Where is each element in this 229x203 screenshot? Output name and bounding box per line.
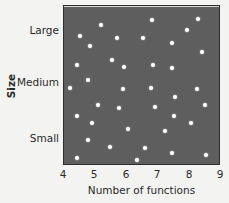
data-point — [195, 87, 199, 91]
data-point — [196, 17, 200, 21]
data-point — [86, 78, 90, 82]
x-tick-7: 7 — [150, 168, 164, 180]
data-point — [108, 145, 112, 149]
data-point — [78, 34, 82, 38]
data-point — [204, 153, 208, 157]
data-point — [99, 23, 103, 27]
data-point — [170, 66, 174, 70]
data-point — [185, 28, 189, 32]
data-point — [170, 41, 174, 45]
data-point — [135, 158, 139, 162]
y-tick-medium: Medium — [17, 76, 59, 88]
x-tick-6: 6 — [119, 168, 133, 180]
data-point — [68, 86, 72, 90]
data-point — [189, 121, 193, 125]
data-point — [75, 156, 79, 160]
data-point — [75, 114, 79, 118]
data-point — [149, 86, 153, 90]
data-point — [143, 146, 147, 150]
data-point — [153, 105, 157, 109]
data-point — [117, 106, 121, 110]
data-point — [121, 87, 125, 91]
data-point — [122, 65, 126, 69]
data-point — [110, 58, 114, 62]
data-point — [115, 36, 119, 40]
data-point — [88, 44, 92, 48]
x-tick-4: 4 — [56, 168, 70, 180]
x-tick-5: 5 — [87, 168, 101, 180]
data-point — [75, 63, 79, 67]
data-point — [86, 138, 90, 142]
data-point — [150, 18, 154, 22]
x-tick-9: 9 — [213, 168, 227, 180]
data-point — [170, 151, 174, 155]
scatter-chart: Size Large Medium Small 4 5 6 7 8 9 Numb… — [0, 0, 229, 203]
x-axis-label: Number of functions — [63, 184, 220, 196]
y-tick-small: Small — [30, 132, 59, 144]
data-point — [172, 114, 176, 118]
data-point — [163, 129, 167, 133]
data-point — [96, 103, 100, 107]
data-point — [203, 103, 207, 107]
plot-area — [63, 5, 220, 165]
y-axis-label: Size — [5, 73, 17, 99]
data-point — [141, 36, 145, 40]
data-point — [126, 127, 130, 131]
y-tick-large: Large — [29, 24, 59, 36]
x-tick-8: 8 — [182, 168, 196, 180]
data-point — [90, 121, 94, 125]
data-point — [200, 50, 204, 54]
data-point — [151, 63, 155, 67]
data-point — [173, 95, 177, 99]
